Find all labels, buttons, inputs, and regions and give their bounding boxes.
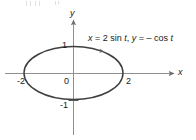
x-tick-label-pos2: 2 xyxy=(126,77,131,86)
plot-canvas xyxy=(0,0,196,140)
y-tick-label-pos1: 1 xyxy=(62,41,67,50)
equation-cos: cos xyxy=(154,33,168,43)
equation-t2: t xyxy=(168,33,173,43)
x-tick-label-neg2: -2 xyxy=(17,77,25,86)
y-tick-label-neg1: -1 xyxy=(60,101,68,110)
y-axis-label: y xyxy=(70,9,75,18)
parametric-curve-figure: x y 1 -1 0 2 -2 x = 2 sin t, y = – cos t xyxy=(0,0,196,140)
equation-sin: sin xyxy=(110,33,122,43)
x-axis-label: x xyxy=(178,68,183,77)
equation-eq1: = 2 xyxy=(93,33,111,43)
origin-label: 0 xyxy=(64,77,69,86)
equation-eq2: = – xyxy=(136,33,154,43)
parametric-equation-annotation: x = 2 sin t, y = – cos t xyxy=(88,34,173,43)
